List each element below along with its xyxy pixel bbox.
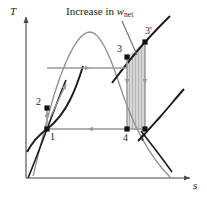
axes — [26, 17, 190, 178]
state-label-3-prime: 3' — [145, 26, 152, 36]
ts-diagram-figure: T s Increase in wnet 1 2 3 3' 4 4' — [0, 0, 207, 199]
state-point-3prime-dot — [142, 39, 147, 44]
annotation-subscript: net — [124, 10, 133, 19]
state-point-4prime-dot — [142, 126, 147, 131]
state-point-3-dot — [124, 54, 129, 59]
diagram-canvas — [0, 0, 207, 199]
annotation-leader-line — [122, 21, 137, 55]
increase-in-net-work-area — [127, 42, 145, 129]
state-label-1: 1 — [50, 132, 55, 142]
state-point-2-dot — [44, 105, 49, 110]
state-label-4-prime: 4' — [139, 133, 146, 143]
increase-in-net-work-annotation: Increase in wnet — [66, 6, 133, 17]
y-axis-label: T — [10, 6, 16, 17]
state-point-4-dot — [124, 126, 129, 131]
state-label-4: 4 — [123, 133, 128, 143]
state-label-3: 3 — [117, 44, 122, 54]
state-label-2: 2 — [36, 97, 41, 107]
x-axis-label: s — [193, 180, 197, 191]
state-point-1-dot — [44, 126, 49, 131]
vapor-dome-curve — [33, 32, 170, 177]
annotation-prefix: Increase in — [66, 5, 117, 17]
annotation-symbol: w — [117, 5, 124, 17]
